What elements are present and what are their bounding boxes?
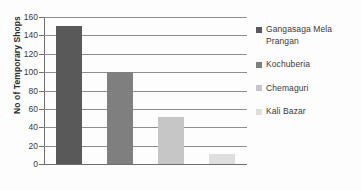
y-axis-tick-mark [39, 164, 44, 165]
y-axis-tick-label: 60 [4, 105, 38, 114]
bar-4 [209, 154, 235, 164]
legend-swatch-icon [256, 62, 262, 68]
y-axis-tick-mark [39, 127, 44, 128]
y-axis-tick-label: 40 [4, 123, 38, 132]
y-axis-tick-mark [39, 54, 44, 55]
bars-container [44, 17, 247, 164]
y-axis-tick-mark [39, 109, 44, 110]
bar-2 [107, 72, 133, 164]
y-axis-tick-mark [39, 17, 44, 18]
bar-chart: No of Temporary Shops 020406080100120140… [0, 0, 362, 190]
legend-item: Gangasaga Mela Prangan [256, 24, 360, 47]
legend-item: Kali Bazar [256, 106, 360, 118]
y-axis-tick-mark [39, 91, 44, 92]
gridline [44, 164, 247, 165]
y-axis-tick-label: 100 [4, 68, 38, 77]
legend-label: Kochuberia [266, 59, 310, 71]
y-axis-tick-label: 80 [4, 87, 38, 96]
legend-swatch-icon [256, 109, 262, 115]
legend-item: Kochuberia [256, 59, 360, 71]
legend-label: Gangasaga Mela Prangan [266, 24, 360, 47]
y-axis-tick-label: 140 [4, 31, 38, 40]
y-axis-tick-mark [39, 72, 44, 73]
plot-area [44, 17, 247, 164]
y-axis-tick-mark [39, 146, 44, 147]
legend-label: Kali Bazar [266, 106, 306, 118]
legend-swatch-icon [256, 85, 262, 91]
y-axis-tick-label: 120 [4, 50, 38, 59]
legend-item: Chemaguri [256, 83, 360, 95]
legend: Gangasaga Mela PranganKochuberiaChemagur… [256, 24, 360, 130]
y-axis-tick-labels: 020406080100120140160 [0, 17, 38, 164]
y-axis-tick-label: 0 [4, 160, 38, 169]
y-axis-tick-label: 20 [4, 142, 38, 151]
y-axis-tick-mark [39, 35, 44, 36]
legend-label: Chemaguri [266, 83, 308, 95]
legend-swatch-icon [256, 27, 262, 33]
bar-1 [56, 26, 82, 164]
bar-3 [158, 117, 184, 164]
y-axis-tick-label: 160 [4, 13, 38, 22]
